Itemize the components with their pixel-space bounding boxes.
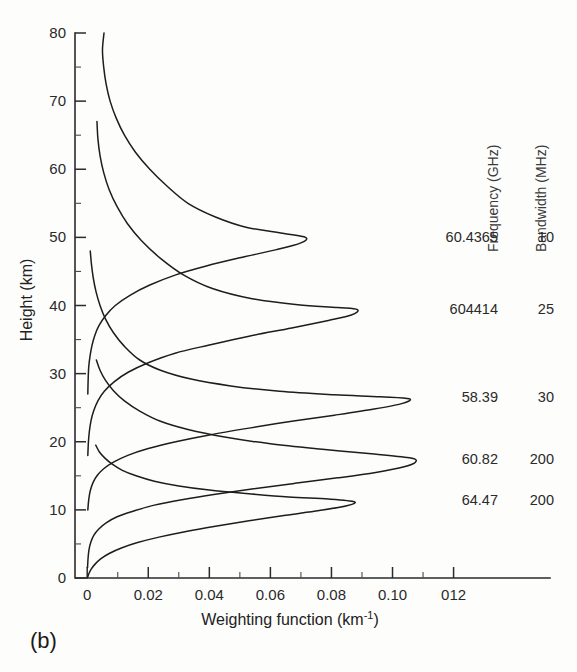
y-axis-tick-labels: 01020304050607080 [49, 24, 66, 586]
x-tick-label: 0.08 [317, 586, 346, 603]
y-tick-label: 10 [49, 501, 66, 518]
weighting-function-chart: 01020304050607080 00.020.040.060.080.100… [0, 0, 577, 672]
legend-bandwidth-value: 30 [538, 389, 554, 405]
x-tick-label: 012 [441, 586, 466, 603]
y-tick-label: 80 [49, 24, 66, 41]
y-axis-ticks [75, 33, 86, 578]
y-tick-label: 0 [58, 569, 66, 586]
legend-frequency-value: 58.39 [462, 389, 498, 405]
legend-group: Frequency (GHz)Bandwidth (MHz)60.4365106… [446, 145, 554, 508]
y-tick-label: 40 [49, 297, 66, 314]
x-tick-label: 0.04 [195, 586, 224, 603]
figure-panel: 01020304050607080 00.020.040.060.080.100… [0, 0, 577, 672]
x-axis-tick-labels: 00.020.040.060.080.10012 [83, 586, 466, 603]
legend-bandwidth-value: 25 [538, 301, 554, 317]
legend-bandwidth-value: 10 [538, 229, 554, 245]
weighting-curve-64.47 [87, 445, 355, 578]
legend-frequency-value: 604414 [450, 301, 498, 317]
panel-label: (b) [30, 628, 57, 653]
curves-group [87, 33, 416, 578]
y-tick-label: 60 [49, 160, 66, 177]
y-tick-label: 50 [49, 228, 66, 245]
legend-frequency-value: 60.82 [462, 451, 498, 467]
weighting-curve-58.39 [88, 251, 411, 510]
legend-bandwidth-value: 200 [530, 451, 554, 467]
y-tick-label: 70 [49, 92, 66, 109]
y-tick-label: 20 [49, 433, 66, 450]
weighting-curve-60.82 [88, 360, 417, 568]
legend-bandwidth-value: 200 [530, 492, 554, 508]
weighting-curve-60.4414 [88, 122, 358, 456]
legend-frequency-value: 64.47 [462, 492, 498, 508]
y-axis-title: Height (km) [18, 259, 35, 342]
y-tick-label: 30 [49, 365, 66, 382]
x-tick-label: 0.06 [256, 586, 285, 603]
x-axis-ticks [87, 567, 453, 578]
x-tick-label: 0.02 [134, 586, 163, 603]
x-tick-label: 0.10 [378, 586, 407, 603]
x-axis-title: Weighting function (km-1) [201, 609, 379, 628]
x-tick-label: 0 [83, 586, 91, 603]
legend-frequency-value: 60.4365 [446, 229, 498, 245]
